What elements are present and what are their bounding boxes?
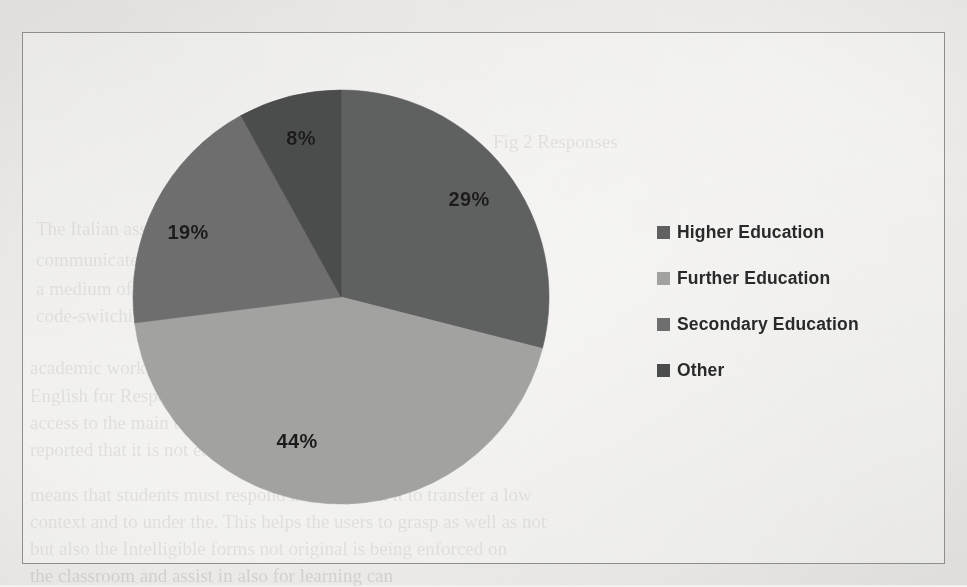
legend-item[interactable]: Other [657,347,927,393]
legend-color-swatch-icon [657,272,670,285]
pie-data-label: 8% [286,127,316,150]
chart-frame: 29%44%19%8% Higher EducationFurther Educ… [22,32,945,564]
legend-color-swatch-icon [657,318,670,331]
legend-item[interactable]: Higher Education [657,209,927,255]
legend-item-label: Higher Education [677,222,824,243]
pie-slice-group[interactable] [133,90,549,504]
legend-item-label: Other [677,360,724,381]
legend-item[interactable]: Further Education [657,255,927,301]
pie-data-label: 29% [449,188,490,211]
pie-data-label: 19% [168,221,209,244]
pie-data-label: 44% [277,430,318,453]
legend-item-label: Secondary Education [677,314,859,335]
legend-item-label: Further Education [677,268,830,289]
legend-item[interactable]: Secondary Education [657,301,927,347]
legend-color-swatch-icon [657,226,670,239]
legend-color-swatch-icon [657,364,670,377]
chart-legend: Higher EducationFurther EducationSeconda… [657,209,927,393]
